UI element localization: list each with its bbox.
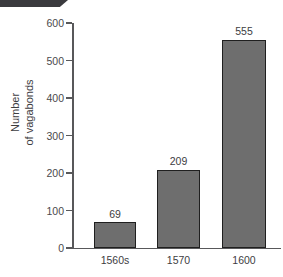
bar-value-label: 69	[109, 209, 121, 220]
x-axis-tick-label: 1560s	[101, 255, 130, 266]
y-axis-tick-label: 600	[38, 18, 64, 29]
y-axis-tick-label: 100	[38, 205, 64, 216]
bar-chart-figure: 0100200300400500600 Number of vagabonds …	[0, 0, 283, 277]
bar[interactable]: 2091570	[157, 170, 200, 248]
y-axis-tick-label: 300	[38, 130, 64, 141]
y-axis-title-line-1: Number	[9, 79, 23, 145]
y-axis-tick-label: 0	[38, 243, 64, 254]
y-axis-tick	[66, 210, 72, 212]
y-axis-tick	[66, 60, 72, 62]
y-axis-tick-label: 400	[38, 93, 64, 104]
y-axis-tick	[66, 172, 72, 174]
y-axis-tick	[66, 97, 72, 99]
bar-value-label: 555	[235, 26, 253, 37]
bar[interactable]: 5551600	[222, 40, 266, 248]
y-axis-tick	[66, 135, 72, 137]
plot-area: 691560s20915705551600	[73, 23, 281, 248]
y-axis-title: Number of vagabonds	[6, 0, 40, 225]
y-axis-title-line-2: of vagabonds	[23, 79, 37, 145]
y-axis-tick	[66, 22, 72, 24]
y-axis-tick-label: 200	[38, 168, 64, 179]
bar[interactable]: 691560s	[94, 222, 136, 248]
bar-value-label: 209	[170, 156, 188, 167]
y-axis-tick	[66, 247, 72, 249]
x-axis-tick-label: 1570	[167, 255, 190, 266]
y-axis-tick-label: 500	[38, 55, 64, 66]
x-axis-tick-label: 1600	[232, 255, 255, 266]
